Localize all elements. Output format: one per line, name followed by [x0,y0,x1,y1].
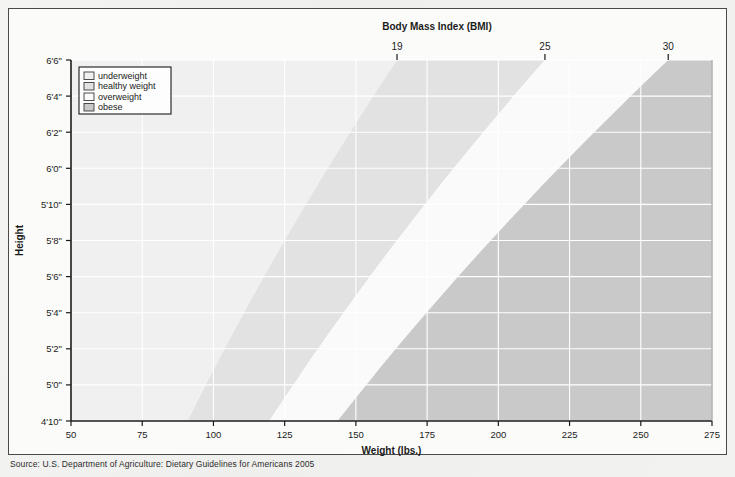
legend-swatch [84,104,94,112]
legend-label: overweight [98,92,142,102]
y-tick-label: 6'6" [46,55,62,66]
top-axis-title: Body Mass Index (BMI) [382,21,491,32]
legend-label: underweight [98,71,148,81]
y-tick-label: 6'2" [46,127,62,138]
x-axis-title: Weight (lbs.) [362,445,422,456]
y-axis-title: Height [14,224,25,256]
source-note: Source: U.S. Department of Agriculture: … [10,459,314,469]
legend-label: healthy weight [98,81,156,91]
x-tick-label: 175 [419,429,435,440]
top-tick-label: 30 [663,41,675,52]
y-tick-label: 5'0" [46,379,62,390]
y-axis-ticks: 4'10"5'0"5'2"5'4"5'6"5'8"5'10"6'0"6'2"6'… [41,55,71,427]
x-tick-label: 125 [277,429,293,440]
x-tick-label: 50 [66,429,77,440]
y-tick-label: 5'4" [46,307,62,318]
y-tick-label: 4'10" [41,416,62,427]
legend-label: obese [98,102,123,112]
x-tick-label: 275 [704,429,720,440]
y-tick-label: 6'4" [46,91,62,102]
legend-item-underweight: underweight [84,71,148,81]
x-tick-label: 225 [562,429,578,440]
y-tick-label: 6'0" [46,163,62,174]
x-tick-label: 75 [137,429,148,440]
top-axis-ticks: 192530 [391,41,674,60]
x-tick-label: 200 [490,429,506,440]
legend-item-obese: obese [84,102,123,112]
top-tick-label: 19 [391,41,403,52]
legend: underweighthealthy weightoverweightobese [79,67,171,114]
x-axis-ticks: 5075100125150175200225250275 [66,421,720,440]
top-tick-label: 25 [539,41,551,52]
legend-swatch [84,83,94,91]
y-tick-label: 5'8" [46,235,62,246]
bmi-chart: 5075100125150175200225250275 4'10"5'0"5'… [9,9,728,456]
x-tick-label: 100 [206,429,222,440]
legend-swatch [84,72,94,80]
x-tick-label: 150 [348,429,364,440]
y-tick-label: 5'6" [46,271,62,282]
x-tick-label: 250 [633,429,649,440]
y-tick-label: 5'10" [41,199,62,210]
legend-item-overweight: overweight [84,92,142,102]
legend-swatch [84,93,94,101]
figure-frame: 5075100125150175200225250275 4'10"5'0"5'… [8,8,727,455]
y-tick-label: 5'2" [46,343,62,354]
